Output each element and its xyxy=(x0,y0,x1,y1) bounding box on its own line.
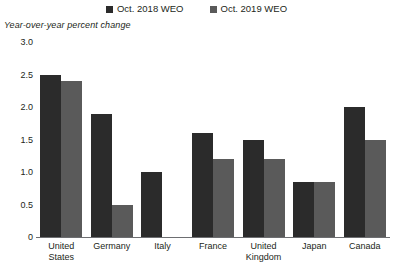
bar xyxy=(243,140,264,238)
x-axis-tick-label: Canada xyxy=(339,241,390,279)
x-axis-tick-label: UnitedStates xyxy=(36,241,87,279)
y-axis-tick-label: 0.5 xyxy=(0,200,33,209)
bar xyxy=(314,182,335,237)
bar xyxy=(40,75,61,238)
y-axis-tick-label: 1.0 xyxy=(0,168,33,177)
legend-swatch-icon xyxy=(210,6,217,13)
y-axis-tick-label: 3.0 xyxy=(0,38,33,47)
legend-item: Oct. 2018 WEO xyxy=(106,4,184,14)
bar-group xyxy=(188,42,239,237)
x-axis-label-line: Canada xyxy=(340,241,389,252)
y-axis-tick-label: 2.0 xyxy=(0,103,33,112)
x-axis-tick-label: UnitedKingdom xyxy=(238,241,289,279)
bar xyxy=(91,114,112,238)
chart-legend: Oct. 2018 WEOOct. 2019 WEO xyxy=(0,2,393,16)
bar-group xyxy=(36,42,87,237)
bar xyxy=(192,133,213,237)
y-axis-tick-label: 0 xyxy=(0,233,33,242)
bar-group xyxy=(137,42,188,237)
bar-group xyxy=(238,42,289,237)
bar-group xyxy=(87,42,138,237)
chart-subtitle: Year-over-year percent change xyxy=(4,20,131,30)
x-axis-label-line: United xyxy=(239,241,288,252)
x-axis-label-line: Italy xyxy=(138,241,187,252)
y-axis: 3.02.52.01.51.00.50 xyxy=(0,42,33,238)
legend-swatch-icon xyxy=(106,6,113,13)
bar xyxy=(213,159,234,237)
legend-label: Oct. 2019 WEO xyxy=(221,4,288,14)
bar xyxy=(61,81,82,237)
bar xyxy=(344,107,365,237)
bar-group xyxy=(339,42,390,237)
x-axis-label-line: Kingdom xyxy=(239,252,288,263)
bar xyxy=(141,172,162,237)
y-axis-tick-label: 2.5 xyxy=(0,70,33,79)
bar xyxy=(365,140,386,238)
x-axis-label-line: States xyxy=(37,252,86,263)
bar xyxy=(112,205,133,238)
x-axis-tick-label: Japan xyxy=(289,241,340,279)
x-axis-tick-label: Italy xyxy=(137,241,188,279)
bar xyxy=(293,182,314,237)
legend-label: Oct. 2018 WEO xyxy=(117,4,184,14)
x-axis-label-line: Japan xyxy=(290,241,339,252)
chart-plot-area xyxy=(36,42,390,237)
y-axis-tick-label: 1.5 xyxy=(0,135,33,144)
x-axis-baseline xyxy=(36,237,390,238)
x-axis-tick-label: Germany xyxy=(87,241,138,279)
x-axis: UnitedStatesGermanyItalyFranceUnitedKing… xyxy=(36,241,390,279)
x-axis-tick-label: France xyxy=(188,241,239,279)
x-axis-label-line: France xyxy=(189,241,238,252)
bar xyxy=(264,159,285,237)
bar-group xyxy=(289,42,340,237)
legend-item: Oct. 2019 WEO xyxy=(210,4,288,14)
x-axis-label-line: Germany xyxy=(88,241,137,252)
x-axis-label-line: United xyxy=(37,241,86,252)
